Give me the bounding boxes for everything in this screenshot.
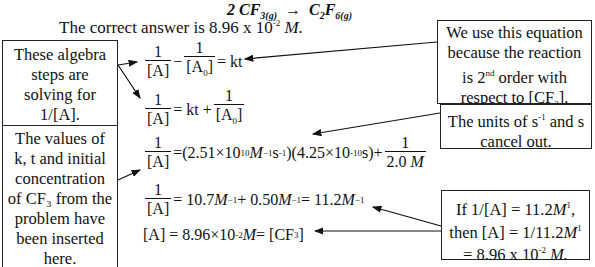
annotation-arrows <box>0 0 595 267</box>
